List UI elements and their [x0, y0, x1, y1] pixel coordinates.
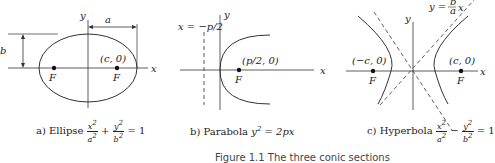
directrix-label: x = −p/2 [178, 21, 223, 32]
hyperbola-panel: y x y = b a x (−c, 0) (c, 0) F F x [320, 0, 486, 130]
y-axis-label: y [79, 10, 86, 21]
equation-term-1: x2a2 [87, 119, 98, 143]
y-axis-label: y [223, 9, 230, 20]
focus-right-label: F [112, 72, 121, 83]
caption-prefix: a) Ellipse [36, 125, 83, 136]
equation-term-1: x2a2 [436, 119, 447, 143]
parabola-panel: y x = −p/2 (p/2, 0) F [178, 9, 314, 110]
parabola-curve [220, 35, 270, 104]
x-axis-label: x [480, 66, 486, 77]
focus-left-label: F [368, 75, 377, 86]
x-axis-label-left: x [320, 65, 326, 76]
focus-left-label: F [48, 72, 57, 83]
equation-rhs: = 2px [265, 126, 295, 137]
asymptote-variable: x [458, 2, 464, 13]
equation-rhs: = 1 [477, 125, 495, 136]
y-axis-label: y [404, 13, 411, 24]
arrow-down-icon [21, 63, 25, 68]
arrow-left-icon [88, 25, 93, 29]
arrow-right-icon [132, 25, 137, 29]
focus-left-coordinate-label: (−c, 0) [352, 55, 387, 66]
focus-point-icon [459, 69, 463, 73]
parabola-caption: b) Parabola y2 = 2px [190, 125, 295, 137]
dimension-a-label: a [105, 14, 111, 25]
focus-point-icon [52, 66, 56, 70]
arrow-up-icon [21, 34, 25, 39]
x-axis-label: x [151, 63, 157, 74]
figure-caption: Figure 1.1 The three conic sections [215, 152, 390, 163]
hyperbola-caption: c) Hyperbola x2a2 − y2b2 = 1 [367, 119, 495, 143]
caption-prefix: c) Hyperbola [367, 125, 433, 136]
equation-operator: + [101, 125, 109, 136]
ellipse-panel: y x a b (c, 0) F F [0, 10, 157, 108]
asymptote-positive [380, 0, 474, 105]
equation-term-2: y2b2 [113, 119, 125, 143]
caption-prefix: b) Parabola [190, 126, 248, 137]
equation-term-2: y2b2 [462, 119, 474, 143]
ellipse-caption: a) Ellipse x2a2 + y2b2 = 1 [36, 119, 145, 143]
focus-label: F [234, 74, 243, 85]
dimension-b-label: b [0, 45, 6, 56]
focus-point-icon [237, 68, 241, 72]
asymptote-label: y = [428, 1, 446, 12]
equation-rhs: = 1 [127, 125, 145, 136]
focus-coordinate-label: (p/2, 0) [242, 55, 279, 66]
focus-point-icon [371, 69, 375, 73]
asymptote-denominator: a [450, 5, 456, 16]
focus-right-label: F [456, 75, 465, 86]
focus-coordinate-label: (c, 0) [100, 53, 126, 64]
focus-right-coordinate-label: (c, 0) [449, 55, 475, 66]
focus-point-icon [115, 66, 119, 70]
equation-operator: − [450, 125, 458, 136]
